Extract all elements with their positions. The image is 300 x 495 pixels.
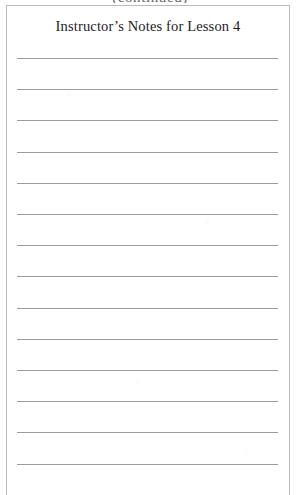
rule-line[interactable] xyxy=(17,276,278,277)
rule-line[interactable] xyxy=(17,432,278,433)
rule-line[interactable] xyxy=(17,370,278,371)
rule-line[interactable] xyxy=(17,308,278,309)
rule-line[interactable] xyxy=(17,464,278,465)
rule-line[interactable] xyxy=(17,183,278,184)
rule-line[interactable] xyxy=(17,339,278,340)
rule-line[interactable] xyxy=(17,120,278,121)
rule-line[interactable] xyxy=(17,152,278,153)
rule-line[interactable] xyxy=(17,58,278,59)
clipped-text-above-box: (continued) xyxy=(0,0,300,3)
rule-line[interactable] xyxy=(17,89,278,90)
rule-line[interactable] xyxy=(17,401,278,402)
rule-line[interactable] xyxy=(17,245,278,246)
rule-line[interactable] xyxy=(17,214,278,215)
ruled-writing-lines xyxy=(7,6,289,495)
instructor-notes-box: Instructor’s Notes for Lesson 4 xyxy=(6,5,290,495)
